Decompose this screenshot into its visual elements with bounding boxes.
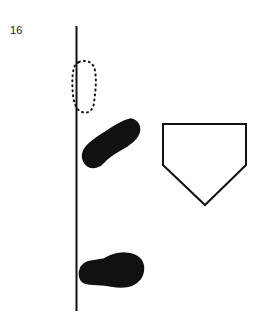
filled-foot-upper bbox=[83, 119, 140, 167]
filled-foot-lower bbox=[79, 253, 143, 287]
figure-container: 16 bbox=[0, 0, 259, 316]
diagram-canvas bbox=[0, 0, 259, 316]
home-plate bbox=[163, 124, 246, 205]
